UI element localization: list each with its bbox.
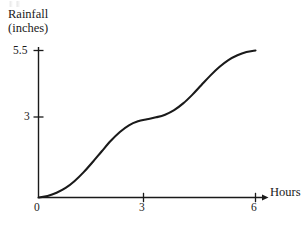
y-tick-label-5-5: 5.5 (13, 44, 27, 56)
y-axis-title: Rainfall (inches) (8, 8, 48, 35)
rainfall-curve (39, 51, 256, 198)
y-axis-title-line2: (inches) (8, 22, 48, 36)
x-tick-label-3: 3 (139, 201, 145, 213)
x-axis-arrow-icon (262, 194, 269, 200)
y-tick-label-3: 3 (24, 110, 30, 122)
x-tick-label-6: 6 (251, 201, 257, 213)
rainfall-chart-figure: Rainfall (inches) Hours 5.5 3 0 3 6 (0, 0, 302, 226)
x-tick-label-0: 0 (34, 201, 40, 213)
y-axis-title-line1: Rainfall (8, 7, 48, 21)
x-axis-title: Hours (270, 186, 301, 200)
